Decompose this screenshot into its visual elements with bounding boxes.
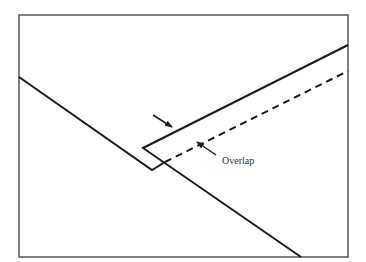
overlap-diagram: Overlap <box>0 0 366 262</box>
upper-strip-outline <box>143 45 348 257</box>
overlap-label: Overlap <box>222 155 254 166</box>
diagram-frame <box>19 15 348 257</box>
lower-strip-edge <box>19 77 165 170</box>
upper-edge-arrow-icon <box>153 115 172 127</box>
overlap-dashed-edge <box>165 71 348 162</box>
overlap-arrow-icon <box>197 142 216 155</box>
